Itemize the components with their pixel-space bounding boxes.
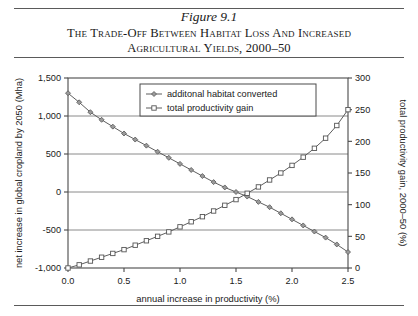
y-axis-left: -1,000-50005001,0001,500 xyxy=(35,73,68,273)
page-title: The Trade-Off Between Habitat Loss and I… xyxy=(0,25,418,56)
title-divider-rule xyxy=(14,57,404,58)
figure-number: Figure 9.1 xyxy=(0,9,418,25)
data-point xyxy=(189,220,193,224)
data-point xyxy=(200,215,204,219)
line-chart: -1,000-50005001,0001,5000501001502002503… xyxy=(0,60,418,305)
data-point xyxy=(155,234,159,238)
data-point xyxy=(211,209,215,213)
figure-title-block: Figure 9.1 The Trade-Off Between Habitat… xyxy=(0,9,418,56)
y-axis-right: 050100150200250300 xyxy=(348,73,370,273)
chart-canvas: -1,000-50005001,0001,5000501001502002503… xyxy=(0,60,418,305)
data-point xyxy=(279,171,283,175)
y-axis-tick-label: 500 xyxy=(46,149,61,159)
legend-label: additonal habitat converted xyxy=(167,89,277,99)
x-axis-tick-label: 2.5 xyxy=(342,276,355,286)
legend-marker xyxy=(152,106,156,110)
figure-container: Figure 9.1 The Trade-Off Between Habitat… xyxy=(0,0,418,316)
y2-axis-tick-label: 100 xyxy=(355,200,370,210)
data-point xyxy=(301,155,305,159)
y2-axis-tick-label: 300 xyxy=(355,73,370,83)
data-point xyxy=(66,266,70,270)
y2-axis-title: total productivity gain, 2000–50 (%) xyxy=(398,100,409,247)
y-axis-tick-label: 0 xyxy=(56,187,61,197)
data-point xyxy=(111,251,115,255)
bottom-divider-rule xyxy=(14,305,404,306)
y-axis-tick-label: -1,000 xyxy=(35,263,61,273)
data-point xyxy=(323,136,327,140)
x-axis-tick-label: 2.0 xyxy=(286,276,299,286)
data-point xyxy=(223,203,227,207)
y2-axis-tick-label: 0 xyxy=(355,263,360,273)
y-axis-tick-label: -500 xyxy=(43,225,61,235)
x-axis-tick-label: 0.0 xyxy=(62,276,75,286)
legend: additonal habitat convertedtotal product… xyxy=(140,84,316,116)
y2-axis-tick-label: 150 xyxy=(355,168,370,178)
data-point xyxy=(267,178,271,182)
data-point xyxy=(99,255,103,259)
y2-axis-tick-label: 250 xyxy=(355,105,370,115)
data-point xyxy=(178,225,182,229)
data-point xyxy=(144,239,148,243)
data-point xyxy=(77,263,81,267)
y-axis-tick-label: 1,000 xyxy=(38,111,61,121)
x-axis-title: annual increase in productivity (%) xyxy=(136,293,279,304)
data-point xyxy=(122,247,126,251)
y2-axis-tick-label: 50 xyxy=(355,232,365,242)
data-point xyxy=(167,230,171,234)
x-axis: 0.00.51.01.52.02.5 xyxy=(62,268,355,286)
data-point xyxy=(290,163,294,167)
data-point xyxy=(88,259,92,263)
data-point xyxy=(312,146,316,150)
data-point xyxy=(256,185,260,189)
x-axis-tick-label: 1.5 xyxy=(230,276,243,286)
data-point xyxy=(133,243,137,247)
y2-axis-tick-label: 200 xyxy=(355,137,370,147)
y-axis-tick-label: 1,500 xyxy=(38,73,61,83)
legend-label: total productivity gain xyxy=(167,103,253,113)
data-point xyxy=(335,123,339,127)
data-point xyxy=(346,107,350,111)
y-axis-title: net increase in global cropland by 2050 … xyxy=(13,78,24,268)
data-point xyxy=(234,197,238,201)
x-axis-tick-label: 1.0 xyxy=(174,276,187,286)
data-point xyxy=(245,191,249,195)
x-axis-tick-label: 0.5 xyxy=(118,276,131,286)
